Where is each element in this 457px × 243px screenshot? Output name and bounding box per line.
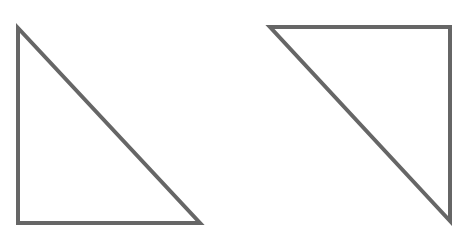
diagram-canvas (0, 0, 457, 243)
left-right-triangle (18, 28, 200, 223)
right-right-triangle (270, 27, 450, 221)
